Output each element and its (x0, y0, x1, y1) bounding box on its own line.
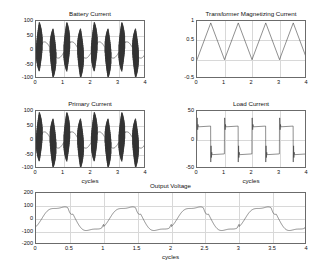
primary-ytick: 100 (15, 108, 33, 114)
output-xtick: 0.5 (62, 246, 76, 252)
mag-xtick: 0 (190, 80, 202, 86)
output-xtick: 4 (299, 246, 313, 252)
battery-ytick: 100 (15, 18, 33, 24)
mag-ytick: 0 (176, 57, 194, 63)
mag-xtick: 4 (300, 80, 312, 86)
battery-xtick: 0 (29, 80, 41, 86)
primary-xtick: 0 (29, 170, 41, 176)
battery-xtick: 1 (57, 80, 69, 86)
battery-ytick: 50 (15, 33, 33, 39)
primary-current-trace (36, 111, 145, 168)
load-xtick: 3 (273, 170, 285, 176)
magnetizing-current-title: Transformer Magnetizing Current (196, 10, 306, 17)
output-xtick: 3.5 (265, 246, 279, 252)
battery-current-trace (36, 21, 145, 78)
primary-ytick: 0 (15, 137, 33, 143)
subplot-transformer-magnetizing-current: Transformer Magnetizing Current 1 0.5 0 … (196, 20, 306, 78)
mag-ytick: 0.5 (176, 37, 194, 43)
subplot-load-current: Load Current 50 0 -50 0 1 2 3 4 cycles (196, 110, 306, 168)
battery-current-title: Battery Current (35, 10, 145, 17)
load-current-title: Load Current (196, 100, 306, 107)
output-ytick: -100 (13, 229, 33, 235)
primary-xtick: 3 (112, 170, 124, 176)
subplot-output-voltage: Output Voltage 200 100 0 -100 -200 0 0.5… (35, 192, 306, 244)
output-xtick: 2 (164, 246, 178, 252)
output-xtick: 1.5 (130, 246, 144, 252)
output-ytick: 200 (13, 190, 33, 196)
output-voltage-trace (36, 193, 306, 244)
load-current-axes (196, 110, 306, 168)
primary-xtick: 1 (57, 170, 69, 176)
primary-ytick: 50 (15, 123, 33, 129)
output-voltage-xlabel: cycles (35, 253, 306, 260)
load-xtick: 2 (245, 170, 257, 176)
mag-xtick: 3 (273, 80, 285, 86)
output-xtick: 1 (96, 246, 110, 252)
output-voltage-title: Output Voltage (35, 182, 306, 189)
load-ytick: 0 (176, 137, 194, 143)
subplot-primary-current: Primary Current 100 50 0 -50 -100 0 1 2 … (35, 110, 145, 168)
load-xtick: 1 (218, 170, 230, 176)
mag-xtick: 1 (218, 80, 230, 86)
battery-xtick: 2 (84, 80, 96, 86)
output-xtick: 2.5 (197, 246, 211, 252)
primary-ytick: -50 (15, 152, 33, 158)
output-voltage-axes (35, 192, 306, 244)
load-xtick: 4 (300, 170, 312, 176)
battery-ytick: -50 (15, 62, 33, 68)
subplot-battery-current: Battery Current 100 50 0 -50 -100 0 1 2 … (35, 20, 145, 78)
figure-canvas: Battery Current 100 50 0 -50 -100 0 1 2 … (0, 0, 321, 273)
primary-xtick: 2 (84, 170, 96, 176)
magnetizing-current-trace (197, 21, 306, 78)
battery-current-axes (35, 20, 145, 78)
battery-xtick: 4 (139, 80, 151, 86)
output-xtick: 0 (28, 246, 42, 252)
magnetizing-current-axes (196, 20, 306, 78)
mag-xtick: 2 (245, 80, 257, 86)
mag-ytick: 1 (176, 18, 194, 24)
primary-current-title: Primary Current (35, 100, 145, 107)
output-ytick: 0 (13, 216, 33, 222)
load-ytick: 50 (176, 108, 194, 114)
load-xtick: 0 (190, 170, 202, 176)
battery-xtick: 3 (112, 80, 124, 86)
output-ytick: 100 (13, 203, 33, 209)
load-current-trace (197, 111, 306, 168)
primary-xtick: 4 (139, 170, 151, 176)
battery-ytick: 0 (15, 47, 33, 53)
primary-current-axes (35, 110, 145, 168)
output-xtick: 3 (231, 246, 245, 252)
